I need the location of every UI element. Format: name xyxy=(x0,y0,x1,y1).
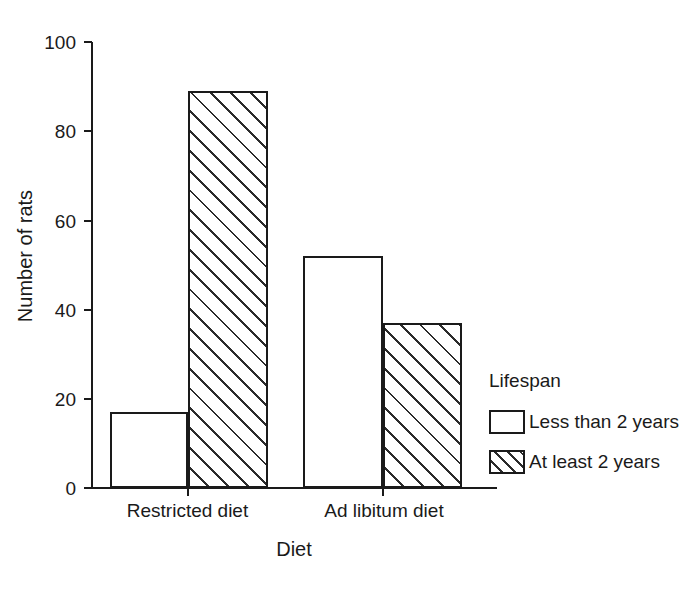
legend-label-at-least-2-years: At least 2 years xyxy=(529,451,660,473)
legend-item-at-least-2-years: At least 2 years xyxy=(489,450,694,474)
legend-item-less-than-2-years: Less than 2 years xyxy=(489,410,694,434)
x-category-label-restricted: Restricted diet xyxy=(105,500,270,522)
bar-chart: 100 80 60 40 20 0 Restricted diet Ad lib… xyxy=(0,0,699,591)
y-tick-label-20: 20 xyxy=(30,390,76,409)
legend-label-less-than-2-years: Less than 2 years xyxy=(529,411,679,433)
legend: Lifespan Less than 2 years At least 2 ye… xyxy=(489,370,694,490)
legend-swatch-solid-white xyxy=(489,410,525,434)
y-tick-label-60: 60 xyxy=(30,212,76,231)
bar-restricted-less-than-2-years xyxy=(110,412,188,488)
y-tick-label-100: 100 xyxy=(30,33,76,52)
plot-area xyxy=(91,42,491,488)
y-tick-label-40: 40 xyxy=(30,301,76,320)
x-category-label-ad-libitum: Ad libitum diet xyxy=(300,500,468,522)
legend-title: Lifespan xyxy=(489,370,694,392)
x-tick-ad-libitum xyxy=(382,489,384,496)
x-tick-restricted xyxy=(187,489,189,496)
legend-swatch-diagonal-hatch xyxy=(489,450,525,474)
bar-ad-libitum-at-least-2-years xyxy=(383,323,462,488)
bar-ad-libitum-less-than-2-years xyxy=(303,256,383,488)
y-tick-label-0: 0 xyxy=(30,479,76,498)
bar-restricted-at-least-2-years xyxy=(188,91,268,488)
y-axis-title: Number of rats xyxy=(14,136,36,376)
x-axis-title: Diet xyxy=(91,538,497,560)
y-tick-label-80: 80 xyxy=(30,122,76,141)
